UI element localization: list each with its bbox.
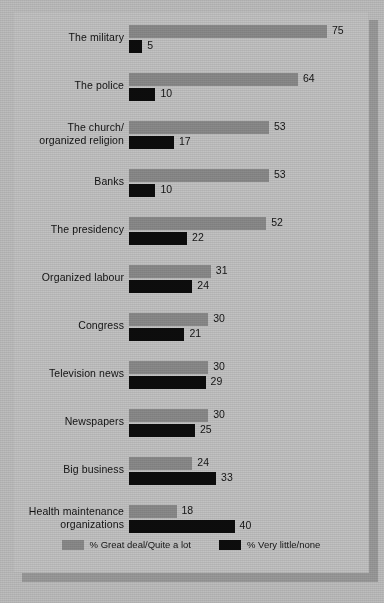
chart-row: Newspapers3025: [13, 405, 369, 449]
legend-swatch-very-little: [219, 540, 241, 550]
chart-row: The military755: [13, 21, 369, 65]
legend-label: % Great deal/Quite a lot: [90, 539, 191, 550]
category-label-line1: The church/: [67, 121, 124, 133]
bar-value-label: 24: [197, 279, 209, 292]
bar-very-little: [129, 184, 155, 197]
bar-very-little: [129, 232, 187, 245]
category-label: Television news: [0, 367, 124, 380]
bar-great-deal: [129, 265, 211, 278]
bar-chart: The military755The police6410The church/…: [13, 11, 369, 573]
category-label: Congress: [0, 319, 124, 332]
bar-value-label: 22: [192, 231, 204, 244]
category-label: The presidency: [0, 223, 124, 236]
bar-great-deal: [129, 217, 266, 230]
bar-value-label: 64: [303, 72, 315, 85]
bar-very-little: [129, 376, 206, 389]
category-label-line2: organized religion: [0, 134, 124, 147]
category-label-line1: The military: [69, 31, 124, 43]
bar-value-label: 29: [211, 375, 223, 388]
category-label-line2: organizations: [0, 518, 124, 531]
chart-row: Congress3021: [13, 309, 369, 353]
bar-very-little: [129, 472, 216, 485]
chart-page: The military755The police6410The church/…: [0, 0, 384, 603]
bar-group: 3025: [129, 405, 369, 449]
bar-value-label: 53: [274, 168, 286, 181]
bar-value-label: 30: [213, 408, 225, 421]
bar-value-label: 10: [160, 183, 172, 196]
bar-value-label: 33: [221, 471, 233, 484]
bar-value-label: 40: [240, 519, 252, 532]
category-label-line1: Big business: [63, 463, 124, 475]
chart-legend: % Great deal/Quite a lot% Very little/no…: [13, 539, 369, 550]
bar-great-deal: [129, 457, 192, 470]
legend-label: % Very little/none: [247, 539, 320, 550]
chart-row: Television news3029: [13, 357, 369, 401]
bar-group: 5222: [129, 213, 369, 257]
category-label-line1: Newspapers: [65, 415, 124, 427]
category-label-line1: Health maintenance: [29, 505, 124, 517]
bar-value-label: 52: [271, 216, 283, 229]
chart-row: The presidency5222: [13, 213, 369, 257]
category-label: Banks: [0, 175, 124, 188]
bar-great-deal: [129, 25, 327, 38]
bar-group: 5310: [129, 165, 369, 209]
legend-swatch-great-deal: [62, 540, 84, 550]
chart-row: The police6410: [13, 69, 369, 113]
bar-very-little: [129, 280, 192, 293]
category-label-line1: The presidency: [51, 223, 124, 235]
bar-great-deal: [129, 409, 208, 422]
bar-value-label: 10: [160, 87, 172, 100]
category-label: Big business: [0, 463, 124, 476]
chart-row: The church/organized religion5317: [13, 117, 369, 161]
category-label: The church/organized religion: [0, 121, 124, 146]
category-label-line1: Organized labour: [42, 271, 124, 283]
bar-very-little: [129, 88, 155, 101]
chart-row: Organized labour3124: [13, 261, 369, 305]
bar-very-little: [129, 40, 142, 53]
legend-item: % Great deal/Quite a lot: [62, 539, 191, 550]
bar-group: 2433: [129, 453, 369, 497]
bar-very-little: [129, 520, 235, 533]
bar-great-deal: [129, 505, 177, 518]
bar-value-label: 24: [197, 456, 209, 469]
bar-very-little: [129, 136, 174, 149]
bar-very-little: [129, 328, 184, 341]
category-label-line1: Television news: [49, 367, 124, 379]
bar-group: 755: [129, 21, 369, 65]
bar-great-deal: [129, 313, 208, 326]
category-label: Health maintenanceorganizations: [0, 505, 124, 530]
bar-group: 6410: [129, 69, 369, 113]
bar-value-label: 18: [182, 504, 194, 517]
category-label-line1: Banks: [94, 175, 124, 187]
bar-value-label: 21: [189, 327, 201, 340]
bar-value-label: 30: [213, 312, 225, 325]
bar-group: 3029: [129, 357, 369, 401]
bar-value-label: 31: [216, 264, 228, 277]
chart-card: The military755The police6410The church/…: [13, 11, 369, 573]
bar-great-deal: [129, 73, 298, 86]
chart-row: Banks5310: [13, 165, 369, 209]
category-label-line1: The police: [75, 79, 124, 91]
bar-value-label: 30: [213, 360, 225, 373]
chart-row: Big business2433: [13, 453, 369, 497]
bar-value-label: 5: [147, 39, 153, 52]
bar-group: 3124: [129, 261, 369, 305]
bar-value-label: 75: [332, 24, 344, 37]
bar-great-deal: [129, 169, 269, 182]
bar-very-little: [129, 424, 195, 437]
bar-value-label: 17: [179, 135, 191, 148]
legend-item: % Very little/none: [219, 539, 320, 550]
category-label: The police: [0, 79, 124, 92]
bar-group: 3021: [129, 309, 369, 353]
category-label: Newspapers: [0, 415, 124, 428]
bar-great-deal: [129, 121, 269, 134]
bar-value-label: 53: [274, 120, 286, 133]
category-label-line1: Congress: [78, 319, 124, 331]
category-label: The military: [0, 31, 124, 44]
bar-great-deal: [129, 361, 208, 374]
bar-group: 5317: [129, 117, 369, 161]
bar-value-label: 25: [200, 423, 212, 436]
category-label: Organized labour: [0, 271, 124, 284]
